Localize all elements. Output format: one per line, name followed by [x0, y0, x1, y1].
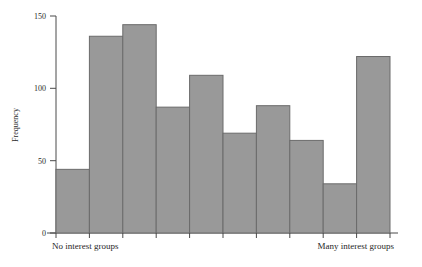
chart-svg: 0 50 100 150 Frequency No interest group… [0, 0, 422, 267]
histogram-bar [156, 107, 189, 233]
histogram-bar [223, 133, 256, 233]
y-tick-label-100: 100 [34, 84, 46, 93]
histogram-bar [256, 106, 289, 233]
x-axis-label-right: Many interest groups [318, 241, 395, 251]
y-tick-label-0: 0 [42, 229, 46, 238]
y-tick-label-50: 50 [38, 157, 46, 166]
histogram-bar [123, 25, 156, 233]
bar-group [56, 25, 390, 233]
histogram-bar [357, 57, 390, 233]
histogram-bar [290, 140, 323, 233]
x-axis-label-left: No interest groups [52, 241, 119, 251]
y-tick-marks [50, 16, 56, 233]
y-axis-title: Frequency [11, 108, 20, 142]
histogram-chart: 0 50 100 150 Frequency No interest group… [0, 0, 422, 267]
histogram-bar [56, 169, 89, 233]
histogram-bar [190, 75, 223, 233]
y-tick-label-150: 150 [34, 12, 46, 21]
x-tick-marks [56, 233, 390, 238]
histogram-bar [89, 36, 122, 233]
histogram-bar [323, 184, 356, 233]
